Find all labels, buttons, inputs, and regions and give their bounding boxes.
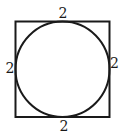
left-side-label: 2 (6, 60, 15, 76)
right-side-label: 2 (110, 55, 119, 71)
inscribed-circle-diagram: 2 2 2 2 (0, 0, 119, 135)
top-side-label: 2 (59, 5, 68, 21)
inscribed-circle (16, 22, 110, 118)
bottom-side-label: 2 (60, 118, 69, 134)
